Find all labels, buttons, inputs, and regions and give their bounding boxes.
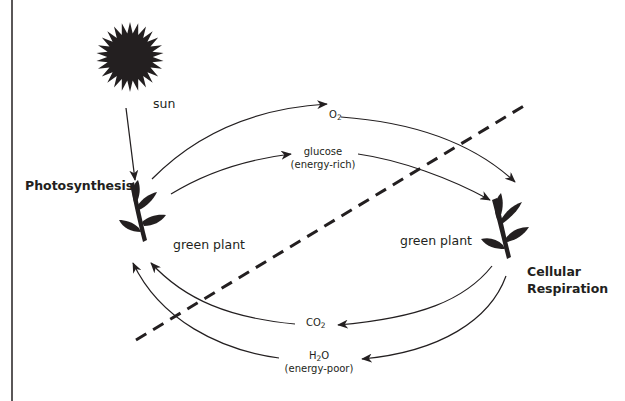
glucose-label: glucose (energy-rich) — [288, 145, 358, 171]
cellular-respiration-line1: Cellular — [527, 263, 608, 280]
h2o-arrow-in — [362, 276, 506, 359]
cycle-diagram: sun Photosynthesis green plant green pla… — [0, 0, 625, 401]
glucose-line2: (energy-rich) — [288, 158, 358, 171]
diagram-canvas — [0, 0, 625, 401]
sunlight-arrow — [126, 108, 135, 180]
co2-arrow-in — [338, 266, 492, 325]
h2o-label: H2O (energy-poor) — [279, 349, 359, 375]
cellular-respiration-line2: Respiration — [527, 280, 608, 297]
glucose-arrow-in — [171, 154, 291, 194]
right-green-plant-label: green plant — [400, 233, 472, 248]
sun-label: sun — [153, 96, 175, 111]
h2o-line2: (energy-poor) — [279, 362, 359, 375]
o2-label: O2 — [329, 108, 342, 121]
co2-arrow-out — [151, 263, 295, 324]
sun-icon — [97, 22, 164, 92]
dashed-divider-line — [136, 104, 527, 340]
h2o-arrow-out — [133, 263, 279, 358]
right-plant-icon — [481, 193, 529, 259]
glucose-line1: glucose — [288, 145, 358, 158]
left-green-plant-label: green plant — [173, 237, 245, 252]
h2o-line1: H2O — [279, 349, 359, 362]
photosynthesis-label: Photosynthesis — [25, 177, 133, 194]
cellular-respiration-label: Cellular Respiration — [527, 263, 608, 297]
co2-label: CO2 — [306, 316, 326, 329]
